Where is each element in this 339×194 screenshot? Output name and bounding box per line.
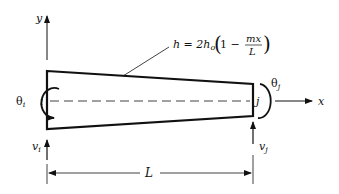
- y-axis: y: [35, 12, 47, 60]
- svg-text:vi: vi: [32, 140, 41, 154]
- leader-line: [123, 47, 169, 76]
- svg-text:): ): [263, 32, 271, 56]
- svg-text:L: L: [248, 46, 256, 57]
- moment-theta-i: θi: [16, 88, 59, 118]
- node-i-label: i: [40, 95, 44, 108]
- force-v-j: vj: [253, 122, 268, 154]
- svg-text:vj: vj: [259, 140, 268, 154]
- tapered-beam-diagram: y x h = 2ho ( 1 − mx L ) θi i θj j vi vj: [0, 0, 339, 194]
- moment-theta-j: θj: [258, 77, 281, 118]
- x-axis: x: [275, 95, 325, 108]
- svg-text:1 −: 1 −: [220, 38, 240, 51]
- beam-element: [47, 71, 253, 129]
- y-axis-label: y: [35, 12, 43, 25]
- svg-text:mx: mx: [246, 33, 261, 44]
- svg-text:h = 2ho: h = 2ho: [173, 38, 215, 52]
- force-v-i: vi: [32, 140, 47, 160]
- length-label: L: [144, 166, 153, 180]
- svg-text:θi: θi: [16, 95, 26, 109]
- length-dimension: L: [47, 155, 253, 184]
- height-equation: h = 2ho ( 1 − mx L ): [173, 32, 271, 57]
- x-axis-label: x: [318, 95, 325, 108]
- svg-text:θj: θj: [271, 77, 281, 91]
